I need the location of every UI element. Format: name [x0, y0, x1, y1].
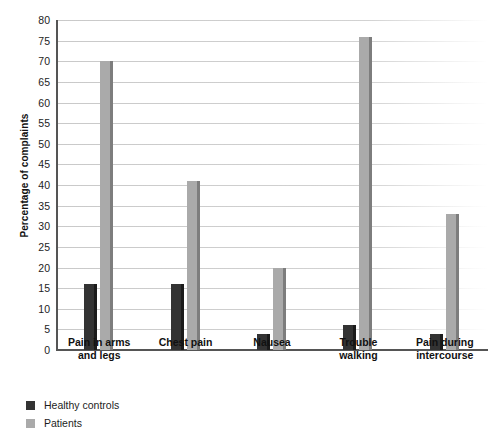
gridline [58, 41, 488, 42]
gridline [58, 123, 488, 124]
bar-shadow [110, 61, 113, 350]
plot-area: 05101520253035404550556065707580 [56, 20, 488, 350]
y-tick-label: 40 [38, 179, 50, 191]
gridline [58, 247, 488, 248]
y-tick-label: 45 [38, 158, 50, 170]
chart-legend: Healthy controlsPatients [26, 396, 119, 432]
y-axis-title: Percentage of complaints [19, 66, 30, 286]
bar [446, 214, 459, 350]
legend-item: Healthy controls [26, 396, 119, 414]
gridline [58, 185, 488, 186]
category-label-line: and legs [39, 349, 159, 362]
gridline [58, 82, 488, 83]
bar-shadow [456, 214, 459, 350]
y-tick-label: 15 [38, 282, 50, 294]
y-tick-label: 80 [38, 14, 50, 26]
bar-face [359, 37, 369, 351]
y-tick-label: 75 [38, 35, 50, 47]
y-tick-label: 5 [44, 323, 50, 335]
y-tick-label: 50 [38, 138, 50, 150]
y-tick-label: 55 [38, 117, 50, 129]
legend-label: Patients [44, 417, 82, 429]
legend-swatch-icon [26, 419, 35, 428]
y-tick-label: 30 [38, 220, 50, 232]
gridline [58, 20, 488, 21]
gridline [58, 226, 488, 227]
bar-face [187, 181, 197, 350]
bar [187, 181, 200, 350]
category-label-line: Pain during [385, 336, 494, 349]
legend-label: Healthy controls [44, 399, 119, 411]
gridline [58, 144, 488, 145]
bar-chart-figure: Percentage of complaints 051015202530354… [0, 0, 494, 445]
y-tick-label: 25 [38, 241, 50, 253]
category-label: Pain duringintercourse [385, 336, 494, 362]
y-tick-label: 65 [38, 76, 50, 88]
gridline [58, 164, 488, 165]
y-tick-label: 60 [38, 97, 50, 109]
gridline [58, 103, 488, 104]
bar [359, 37, 372, 351]
gridline [58, 206, 488, 207]
gridline [58, 61, 488, 62]
bar-face [100, 61, 110, 350]
y-tick-label: 10 [38, 303, 50, 315]
bar-shadow [197, 181, 200, 350]
legend-swatch-icon [26, 401, 35, 410]
y-tick-label: 20 [38, 262, 50, 274]
y-tick-label: 35 [38, 200, 50, 212]
bar-shadow [369, 37, 372, 351]
legend-item: Patients [26, 414, 119, 432]
bar [100, 61, 113, 350]
category-label-line: intercourse [385, 349, 494, 362]
y-tick-label: 70 [38, 55, 50, 67]
bar-face [446, 214, 456, 350]
